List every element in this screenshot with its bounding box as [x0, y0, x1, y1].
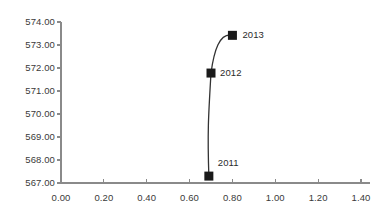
y-axis-tick-label: 571.00 [9, 85, 55, 96]
y-axis-tick-label: 570.00 [9, 108, 55, 119]
data-point-marker [204, 172, 213, 181]
data-point-label: 2013 [242, 29, 264, 40]
y-axis-tick-label: 567.00 [9, 177, 55, 188]
data-point-marker [228, 31, 237, 40]
y-axis-tick-label: 572.00 [9, 62, 55, 73]
y-axis-tick-label: 574.00 [9, 16, 55, 27]
x-axis-tick-label: 0.40 [125, 192, 169, 203]
x-axis-tick-label: 1.40 [339, 192, 383, 203]
x-axis-tick-label: 0.20 [82, 192, 126, 203]
data-point-marker [207, 69, 216, 78]
plot-area [0, 0, 387, 219]
y-axis-tick-label: 569.00 [9, 131, 55, 142]
chart-container: 567.00568.00569.00570.00571.00572.00573.… [0, 0, 387, 219]
series-line [208, 35, 232, 176]
x-axis-tick-label: 0.60 [168, 192, 212, 203]
axes [57, 22, 370, 183]
y-axis-tick-label: 573.00 [9, 39, 55, 50]
y-axis-tick-label: 568.00 [9, 154, 55, 165]
x-axis-tick-label: 1.20 [296, 192, 340, 203]
x-axis-tick-label: 1.00 [253, 192, 297, 203]
data-point-label: 2011 [218, 157, 239, 168]
data-point-label: 2012 [220, 67, 242, 78]
x-axis-tick-label: 0.00 [39, 192, 83, 203]
x-axis-tick-label: 0.80 [210, 192, 254, 203]
